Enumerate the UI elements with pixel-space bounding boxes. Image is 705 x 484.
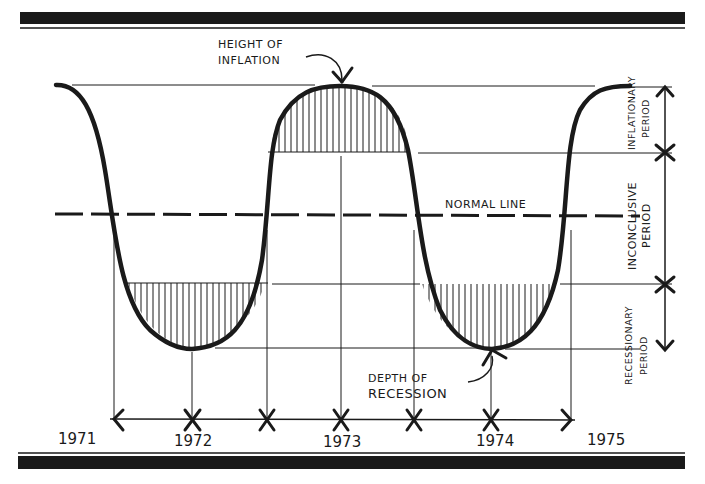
normal-line — [55, 214, 640, 216]
trough-label-line1: DEPTH OF — [368, 372, 428, 385]
svg-text:PERIOD: PERIOD — [640, 203, 653, 248]
inflation-peak-shading — [265, 84, 415, 154]
trough-arrow-head — [483, 350, 506, 365]
trough-label-line2: RECESSION — [368, 386, 447, 401]
year-label-1973: 1973 — [323, 433, 361, 451]
inconclusive-period-label: INCONCLUSIVE PERIOD — [626, 182, 653, 270]
peak-label-line1: HEIGHT OF — [218, 38, 283, 51]
svg-text:PERIOD: PERIOD — [638, 336, 649, 375]
trough-arrow — [468, 356, 493, 382]
normal-line-label: NORMAL LINE — [445, 198, 526, 211]
svg-text:PERIOD: PERIOD — [640, 99, 651, 138]
year-label-1972: 1972 — [174, 432, 212, 450]
year-label-1974: 1974 — [476, 432, 514, 450]
recessionary-period-label: RECESSIONARY PERIOD — [623, 306, 649, 385]
svg-text:RECESSIONARY: RECESSIONARY — [623, 306, 634, 385]
peak-arrow-head — [333, 68, 352, 82]
business-cycle-diagram: HEIGHT OF INFLATION DEPTH OF RECESSION N… — [0, 0, 705, 484]
bottom-thick-border — [18, 456, 685, 469]
year-label-1975: 1975 — [587, 431, 625, 449]
peak-label-line2: INFLATION — [218, 54, 280, 67]
year-label-1971: 1971 — [58, 430, 96, 448]
svg-text:INCONCLUSIVE: INCONCLUSIVE — [626, 182, 639, 270]
svg-text:INFLATIONARY: INFLATIONARY — [626, 76, 637, 150]
recession-trough-shading-1 — [125, 282, 270, 352]
top-thick-border — [20, 12, 685, 24]
